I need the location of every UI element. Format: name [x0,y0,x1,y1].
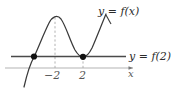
x-axis-label: x [128,69,134,79]
x-tick-label-neg2: −2 [44,70,60,81]
x-tick-label-pos2: 2 [79,70,86,81]
x-axis [5,66,133,69]
point-marker-right [80,54,86,60]
curve-y-equals-fx [24,14,106,87]
curve-label: y = f(x) [98,6,139,17]
point-marker-left [31,53,37,59]
level-line-label: y = f(2) [129,51,171,62]
function-graph-figure: y = f(x) y = f(2) −2 2 x [0,0,171,88]
